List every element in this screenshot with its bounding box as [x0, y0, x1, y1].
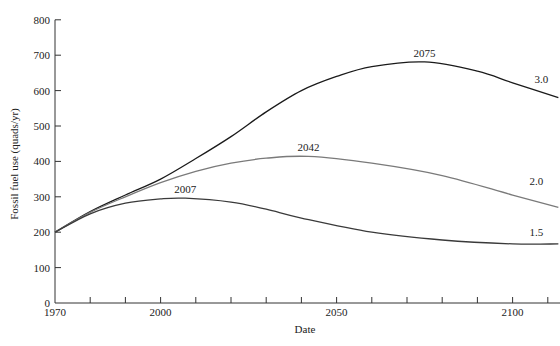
x-tick-label: 2100 — [502, 306, 525, 318]
x-tick-label: 2000 — [150, 306, 173, 318]
series-line-2-0 — [55, 156, 558, 232]
series-label: 3.0 — [535, 73, 549, 85]
y-tick-label: 200 — [34, 226, 51, 238]
series-line-1-5 — [55, 198, 558, 244]
x-axis-title: Date — [295, 323, 316, 335]
y-tick-label: 300 — [34, 191, 51, 203]
x-tick-label: 1970 — [44, 306, 67, 318]
y-tick-label: 400 — [34, 155, 51, 167]
y-axis-title: Fossil fuel use (quads/yr) — [8, 108, 21, 220]
y-tick-label: 800 — [34, 14, 51, 26]
line-chart: 0100200300400500600700800197020002050210… — [0, 0, 560, 346]
series-label: 2.0 — [530, 175, 544, 187]
y-tick-label: 700 — [34, 49, 51, 61]
peak-label: 2075 — [414, 47, 437, 59]
peak-label: 2042 — [297, 141, 319, 153]
peak-label: 2007 — [174, 183, 197, 195]
y-tick-label: 600 — [34, 85, 51, 97]
axes: 0100200300400500600700800197020002050210… — [34, 14, 560, 318]
x-tick-label: 2050 — [326, 306, 349, 318]
y-tick-label: 100 — [34, 262, 51, 274]
y-tick-label: 500 — [34, 120, 51, 132]
series-label: 1.5 — [530, 226, 544, 238]
